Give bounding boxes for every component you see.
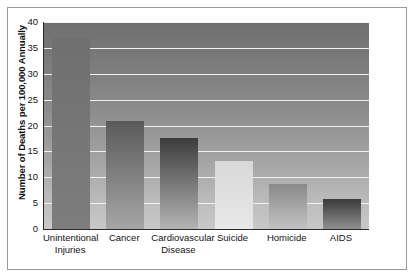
x-axis-category-label-line: AIDS (314, 232, 368, 244)
y-axis-tick-label: 5 (18, 198, 38, 208)
x-axis-category-labels: UnintentionalInjuriesCancerCardiovascula… (43, 232, 368, 266)
x-axis-category-label-line: Homicide (260, 232, 314, 244)
bar (52, 38, 90, 229)
y-axis-tick-label: 15 (18, 146, 38, 156)
y-axis-tick-label: 10 (18, 172, 38, 182)
x-axis-category-label: Homicide (260, 232, 314, 244)
bar (106, 121, 144, 229)
bar (323, 199, 361, 229)
bar (269, 184, 307, 229)
x-axis-category-label: UnintentionalInjuries (43, 232, 97, 255)
x-axis-category-label-line: Unintentional (43, 232, 97, 244)
chart-figure: Number of Deaths per 100,000 Annually 40… (0, 0, 414, 277)
y-axis-tick-label: 25 (18, 95, 38, 105)
x-axis-category-label-line: Injuries (43, 244, 97, 256)
plot-area (43, 22, 369, 230)
bar (215, 161, 253, 229)
y-axis-tick-label: 20 (18, 121, 38, 131)
y-axis-tick-label: 30 (18, 69, 38, 79)
y-axis-tick-label: 35 (18, 43, 38, 53)
x-axis-category-label: Cancer (97, 232, 151, 244)
x-axis-category-label-line: Suicide (206, 232, 260, 244)
y-axis-tick-labels: 4035302520151050 (18, 16, 38, 235)
x-axis-category-label-line: Cancer (97, 232, 151, 244)
bar-series (44, 22, 369, 229)
bar (160, 138, 198, 229)
y-axis-tick-label: 40 (18, 17, 38, 27)
x-axis-category-label-line: Disease (151, 244, 205, 256)
x-axis-category-label-line: Cardiovascular (151, 232, 205, 244)
x-axis-category-label: CardiovascularDisease (151, 232, 205, 255)
y-axis-tick-label: 0 (18, 224, 38, 234)
x-axis-category-label: Suicide (206, 232, 260, 244)
x-axis-category-label: AIDS (314, 232, 368, 244)
